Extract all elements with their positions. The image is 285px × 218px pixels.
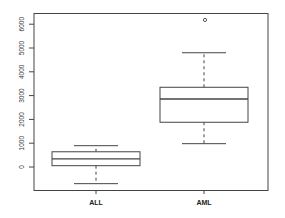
y-axis: 0100020003000400050006000 bbox=[18, 17, 34, 169]
y-tick-label: 3000 bbox=[18, 88, 25, 103]
box-plot: 0100020003000400050006000 ALLAML bbox=[0, 0, 285, 218]
box-all bbox=[52, 146, 140, 184]
y-tick-label: 5000 bbox=[18, 40, 25, 55]
y-tick-label: 0 bbox=[18, 165, 25, 169]
y-tick-label: 1000 bbox=[18, 136, 25, 151]
outlier-point bbox=[203, 18, 206, 21]
box-series bbox=[52, 18, 248, 183]
y-tick-label: 4000 bbox=[18, 64, 25, 79]
x-axis: ALLAML bbox=[89, 191, 212, 207]
iqr-box bbox=[160, 87, 248, 122]
y-tick-label: 6000 bbox=[18, 17, 25, 32]
box-aml bbox=[160, 18, 248, 143]
y-tick-label: 2000 bbox=[18, 112, 25, 127]
x-category-label: ALL bbox=[89, 199, 103, 206]
x-category-label: AML bbox=[196, 199, 212, 206]
